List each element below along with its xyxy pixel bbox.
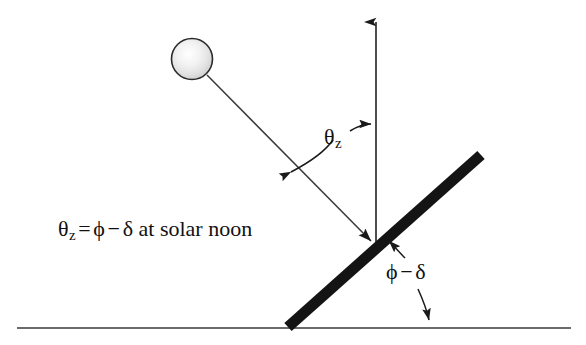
- solar-geometry-diagram: θz=ϕ−δ at solar noon θz ϕ−δ: [0, 0, 586, 345]
- eq-minus: −: [105, 216, 123, 241]
- zenith-angle-label: θz: [324, 126, 342, 151]
- tilt-angle-leader-to-collector: [389, 241, 405, 258]
- tilt-delta: δ: [415, 259, 425, 284]
- theta-symbol: θ: [324, 124, 335, 149]
- tilt-phi: ϕ: [386, 259, 398, 284]
- diagram-canvas: [0, 0, 586, 345]
- tilt-minus: −: [398, 259, 416, 284]
- eq-equals: =: [76, 216, 94, 241]
- eq-theta-subscript: z: [69, 227, 76, 243]
- sun: [172, 39, 213, 80]
- eq-theta-symbol: θ: [58, 216, 69, 241]
- zenith-angle-equation-label: θz=ϕ−δ at solar noon: [58, 218, 252, 243]
- tilted-collector: [288, 155, 481, 327]
- eq-suffix: at solar noon: [139, 216, 253, 241]
- eq-delta: δ: [123, 216, 133, 241]
- zenith-angle-arc-right: [350, 124, 371, 131]
- tilt-angle-label: ϕ−δ: [386, 261, 426, 283]
- theta-subscript: z: [335, 135, 342, 151]
- eq-phi: ϕ: [93, 216, 105, 241]
- tilt-angle-leader-to-ground: [418, 289, 429, 320]
